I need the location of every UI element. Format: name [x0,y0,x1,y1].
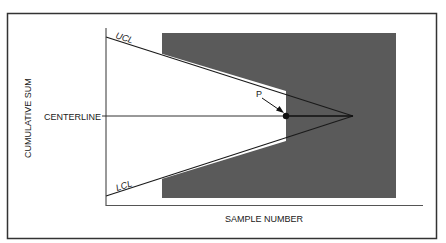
y-axis-label: CUMULATIVE SUM [23,78,33,158]
x-axis-label: SAMPLE NUMBER [225,214,304,224]
cusum-diagram: UCL LCL CENTERLINE P CUMULATIVE SUM SAMP… [0,0,446,243]
centerline-label: CENTERLINE [44,112,101,122]
point-p-marker [283,113,289,119]
point-p-label: P [256,89,262,99]
